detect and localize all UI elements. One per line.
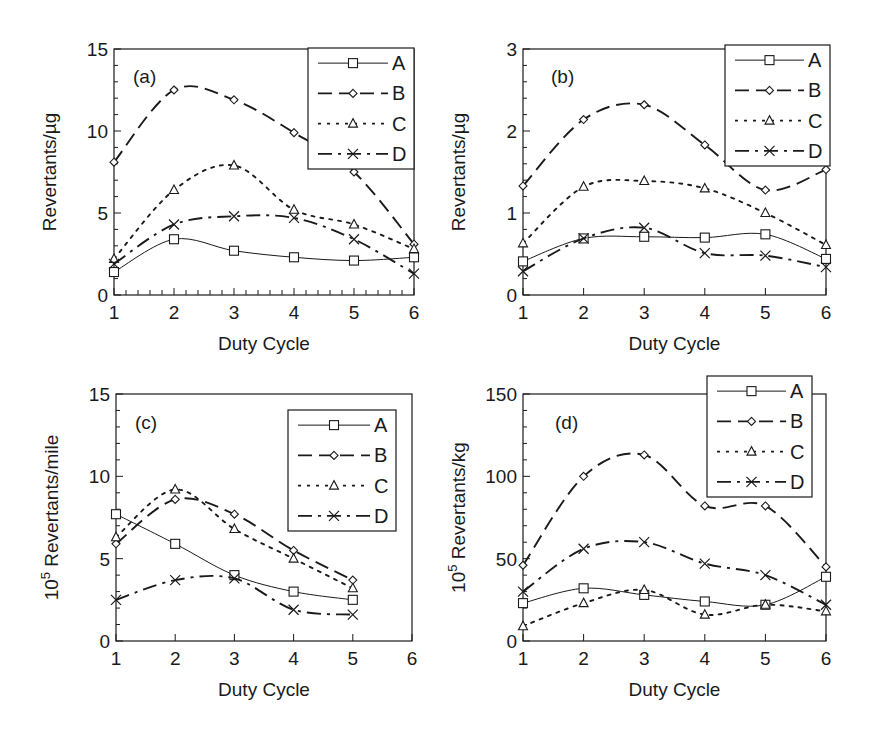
- panel-a: 051015123456Duty CycleRevertants/µg(a)AB…: [39, 39, 419, 354]
- x-tick-label: 5: [760, 648, 771, 669]
- x-tick-label: 3: [639, 302, 650, 323]
- series-A-marker: [519, 599, 528, 608]
- panel-d: 050100150123456Duty Cycle105 Revertants/…: [445, 376, 831, 700]
- x-axis-label: Duty Cycle: [218, 333, 310, 354]
- series-B-marker: [701, 502, 709, 510]
- series-C-marker: [640, 585, 649, 594]
- series-C-marker: [171, 485, 180, 494]
- series-line: [114, 239, 414, 272]
- series-B-marker: [640, 101, 648, 109]
- legend-label-C: C: [808, 110, 822, 132]
- legend-A-marker: [330, 421, 339, 430]
- series-C-marker: [640, 176, 649, 185]
- y-tick-label: 5: [99, 549, 110, 570]
- series-B-marker: [761, 186, 769, 194]
- y-tick-label: 50: [496, 549, 517, 570]
- y-tick-label: 3: [506, 39, 517, 60]
- series-B-marker: [822, 166, 830, 174]
- series-A: [110, 235, 419, 277]
- y-tick-label: 100: [485, 466, 517, 487]
- legend-label-B: B: [808, 79, 821, 101]
- series-A-marker: [579, 584, 588, 593]
- legend-label-A: A: [374, 414, 388, 436]
- series-A: [519, 572, 831, 609]
- series-B-marker: [230, 96, 238, 104]
- series-A-marker: [822, 254, 831, 263]
- series-C-marker: [112, 532, 121, 541]
- series-D-marker: [169, 219, 179, 229]
- series-A-marker: [112, 510, 121, 519]
- series-line: [523, 577, 826, 606]
- series-A-marker: [290, 253, 299, 262]
- legend: ABCD: [707, 376, 812, 497]
- x-tick-label: 6: [821, 648, 832, 669]
- legend-label-D: D: [392, 143, 406, 165]
- x-axis-label: Duty Cycle: [218, 679, 310, 700]
- series-A-marker: [822, 572, 831, 581]
- series-A-marker: [230, 246, 239, 255]
- x-tick-label: 4: [289, 302, 300, 323]
- series-C-marker: [350, 219, 359, 228]
- series-B-marker: [230, 510, 238, 518]
- series-B-marker: [822, 563, 830, 571]
- series-A-marker: [350, 256, 359, 265]
- y-tick-label: 2: [506, 121, 517, 142]
- series-line: [523, 227, 826, 271]
- panel-label: (d): [555, 412, 578, 433]
- series-C-marker: [761, 208, 770, 217]
- series-D-marker: [639, 537, 649, 547]
- legend-label-D: D: [808, 140, 822, 162]
- legend-A-marker: [765, 56, 774, 65]
- x-tick-label: 1: [111, 648, 122, 669]
- series-C: [110, 160, 419, 262]
- series-A-marker: [110, 268, 119, 277]
- panel-label: (c): [135, 412, 157, 433]
- legend: ABCD: [288, 410, 396, 531]
- x-tick-label: 6: [409, 302, 420, 323]
- x-tick-label: 6: [821, 302, 832, 323]
- y-tick-label: 0: [506, 631, 517, 652]
- series-D-marker: [700, 248, 710, 258]
- series-A-marker: [640, 232, 649, 241]
- legend-label-B: B: [790, 410, 803, 432]
- series-D: [518, 537, 831, 610]
- x-tick-label: 2: [170, 648, 181, 669]
- x-tick-label: 4: [700, 302, 711, 323]
- panel-b: 0123123456Duty CycleRevertants/µg(b)ABCD: [448, 39, 831, 354]
- series-C-marker: [230, 524, 239, 533]
- panel-label: (a): [133, 66, 156, 87]
- legend-label-A: A: [392, 52, 406, 74]
- x-tick-label: 2: [578, 648, 589, 669]
- series-D-marker: [579, 544, 589, 554]
- panel-c: 051015123456Duty Cycle105 Revertants/mil…: [38, 384, 417, 700]
- series-C-marker: [579, 182, 588, 191]
- series-D-marker: [349, 234, 359, 244]
- series-B-marker: [171, 495, 179, 503]
- figure: 051015123456Duty CycleRevertants/µg(a)AB…: [0, 0, 875, 735]
- y-axis-label: 105 Revertants/kg: [445, 442, 469, 593]
- legend-label-D: D: [374, 505, 388, 527]
- x-tick-label: 2: [578, 302, 589, 323]
- legend-label-C: C: [374, 475, 388, 497]
- series-A: [519, 230, 831, 266]
- y-tick-label: 10: [89, 466, 110, 487]
- series-A-marker: [700, 233, 709, 242]
- x-tick-label: 1: [109, 302, 120, 323]
- series-C-marker: [289, 554, 298, 563]
- series-line: [523, 590, 826, 626]
- series-C-marker: [290, 205, 299, 214]
- legend-label-B: B: [374, 444, 387, 466]
- y-tick-label: 15: [89, 384, 110, 405]
- y-tick-label: 0: [97, 285, 108, 306]
- y-tick-label: 10: [87, 121, 108, 142]
- x-axis-label: Duty Cycle: [629, 333, 721, 354]
- series-D: [111, 573, 358, 619]
- series-A-marker: [700, 597, 709, 606]
- y-axis-label: 105 Revertants/mile: [38, 435, 62, 601]
- y-axis-label: Revertants/µg: [39, 113, 60, 232]
- y-tick-label: 5: [97, 203, 108, 224]
- legend: ABCD: [725, 45, 830, 166]
- series-D-marker: [289, 605, 299, 615]
- x-tick-label: 3: [639, 648, 650, 669]
- series-line: [523, 541, 826, 605]
